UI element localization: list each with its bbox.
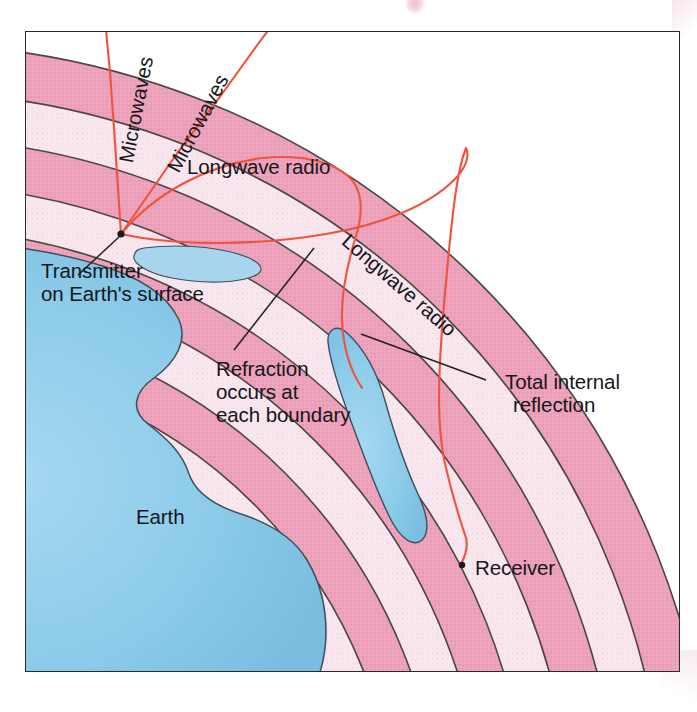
label-receiver: Receiver: [475, 556, 555, 579]
label-refraction-line3: each boundary: [216, 403, 350, 426]
label-transmitter-line2: on Earth's surface: [41, 282, 204, 305]
figure-frame: Microwaves Microwaves Longwave radio Lon…: [25, 31, 680, 672]
label-total-internal-line1: Total internal: [505, 370, 620, 393]
figure-page: Microwaves Microwaves Longwave radio Lon…: [0, 0, 697, 712]
receiver-dot: [459, 562, 465, 568]
label-transmitter-line1: Transmitter: [41, 259, 143, 282]
label-refraction-line2: occurs at: [216, 380, 298, 403]
label-longwave-radio-top: Longwave radio: [187, 155, 330, 178]
label-earth: Earth: [136, 505, 185, 528]
page-smudge-top: [405, 0, 425, 14]
label-total-internal-line2: reflection: [513, 393, 595, 416]
label-refraction-line1: Refraction: [216, 357, 308, 380]
